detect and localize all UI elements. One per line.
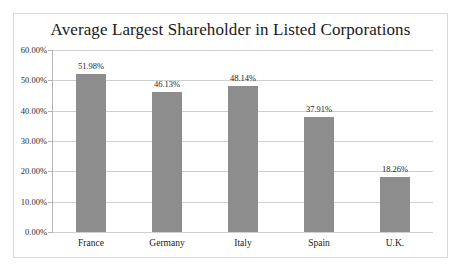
y-axis-tick-mark <box>48 50 53 51</box>
gridline <box>53 232 433 233</box>
bar-value-label: 46.13% <box>154 79 180 89</box>
plot-area: 51.98%46.13%48.14%37.91%18.26% <box>53 50 433 232</box>
bar[interactable] <box>152 92 182 232</box>
bar-value-label: 48.14% <box>230 73 256 83</box>
x-axis-category-label: France <box>53 238 129 248</box>
y-axis-tick-mark <box>48 202 53 203</box>
chart-title: Average Largest Shareholder in Listed Co… <box>14 20 447 40</box>
y-axis-tick-label: 20.00% <box>13 166 47 176</box>
x-axis-category-label: U.K. <box>357 238 433 248</box>
bar-value-label: 37.91% <box>306 104 332 114</box>
bar[interactable] <box>76 74 106 232</box>
y-axis-tick-mark <box>48 171 53 172</box>
y-axis-tick-label: 60.00% <box>13 45 47 55</box>
x-axis-category-label: Spain <box>281 238 357 248</box>
x-axis-category-label: Germany <box>129 238 205 248</box>
y-axis-tick-label: 30.00% <box>13 136 47 146</box>
y-axis-tick-label: 40.00% <box>13 106 47 116</box>
bar-group: 48.14% <box>205 50 281 232</box>
y-axis-tick-label: 50.00% <box>13 75 47 85</box>
chart-figure: Average Largest Shareholder in Listed Co… <box>13 13 448 258</box>
bar-group: 18.26% <box>357 50 433 232</box>
bar-group: 37.91% <box>281 50 357 232</box>
bar[interactable] <box>228 86 258 232</box>
bar[interactable] <box>304 117 334 232</box>
y-axis-tick-label: 10.00% <box>13 197 47 207</box>
bar-value-label: 18.26% <box>382 164 408 174</box>
y-axis-tick-mark <box>48 141 53 142</box>
bar-group: 46.13% <box>129 50 205 232</box>
y-axis-tick-labels: 0.00%10.00%20.00%30.00%40.00%50.00%60.00… <box>14 14 47 257</box>
bar-group: 51.98% <box>53 50 129 232</box>
bar[interactable] <box>380 177 410 232</box>
y-axis-tick-mark <box>48 111 53 112</box>
y-axis-tick-mark <box>48 232 53 233</box>
y-axis-tick-mark <box>48 80 53 81</box>
y-axis-tick-label: 0.00% <box>13 227 47 237</box>
bar-value-label: 51.98% <box>78 61 104 71</box>
x-axis-category-label: Italy <box>205 238 281 248</box>
